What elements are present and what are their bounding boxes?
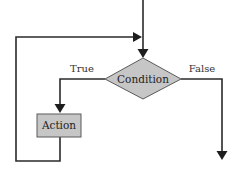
true-branch-edge [60,79,105,106]
entry-arrowhead-icon [138,49,149,58]
loop-back-arrowhead-icon [133,32,142,42]
condition-label: Condition [117,73,169,85]
false-label: False [189,63,216,74]
loop-back-edge [16,37,134,161]
true-label: True [70,63,94,74]
action-node: Action [37,114,81,137]
condition-node: Condition [105,58,181,99]
action-label: Action [41,119,76,131]
flowchart-diagram: Condition True False Action [0,0,241,170]
true-branch-arrowhead-icon [55,104,66,113]
false-branch-edge [181,79,222,152]
false-branch-arrowhead-icon [217,151,228,160]
